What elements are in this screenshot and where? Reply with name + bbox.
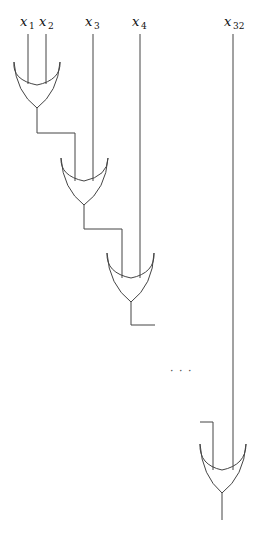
- svg-text:2: 2: [48, 21, 54, 31]
- svg-text:x: x: [20, 14, 28, 29]
- or-gate-1: [14, 62, 60, 108]
- svg-text:x: x: [85, 14, 93, 29]
- svg-text:32: 32: [233, 21, 244, 31]
- or-gate-final: [200, 444, 246, 493]
- svg-text:x: x: [224, 14, 232, 29]
- input-label-x3: x 3: [85, 14, 100, 31]
- svg-text:x: x: [132, 14, 140, 29]
- or-gate-2: [61, 158, 108, 205]
- input-label-x1: x 1: [20, 14, 35, 31]
- svg-text:3: 3: [94, 21, 100, 31]
- wire-gate3-output: [131, 302, 155, 325]
- svg-text:1: 1: [29, 21, 35, 31]
- or-gate-chain-diagram: x 1 x 2 x 3 x 4 x 32 · · ·: [0, 0, 259, 534]
- wire-gate2-output: [84, 205, 122, 278]
- input-label-x32: x 32: [224, 14, 244, 31]
- or-gate-3: [107, 253, 154, 302]
- input-label-x4: x 4: [132, 14, 147, 31]
- ellipsis: · · ·: [170, 365, 192, 378]
- svg-text:4: 4: [141, 21, 147, 31]
- input-label-x2: x 2: [39, 14, 54, 31]
- svg-text:x: x: [39, 14, 47, 29]
- wire-gate1-output: [37, 108, 75, 181]
